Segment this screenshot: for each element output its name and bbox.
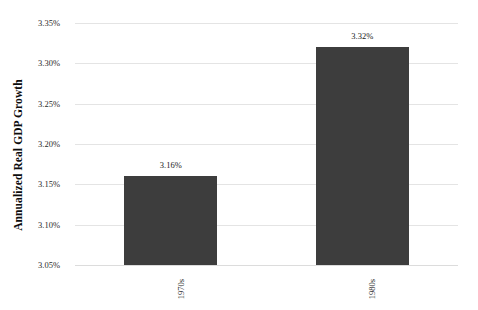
bar-value-label: 3.16% xyxy=(160,160,182,170)
bar-chart: Annualized Real GDP Growth 3.35%3.30%3.2… xyxy=(0,0,478,310)
bar-1980s[interactable] xyxy=(316,47,409,265)
x-axis-tick-label: 1980s xyxy=(367,279,377,299)
y-axis-tick-label: 3.35% xyxy=(0,18,66,28)
y-axis-tick-label: 3.30% xyxy=(0,58,66,68)
gridline xyxy=(75,23,458,24)
bar-value-label: 3.32% xyxy=(351,31,373,41)
y-axis-tick-label: 3.05% xyxy=(0,260,66,270)
x-axis-tick-label: 1970s xyxy=(176,279,186,299)
y-axis-tick-label: 3.20% xyxy=(0,139,66,149)
y-axis-tick-label: 3.10% xyxy=(0,220,66,230)
y-axis-tick-labels: 3.35%3.30%3.25%3.20%3.15%3.10%3.05% xyxy=(0,23,70,265)
plot-area: 3.16%3.32% xyxy=(75,23,458,265)
gridline xyxy=(75,265,458,266)
y-axis-tick-label: 3.15% xyxy=(0,179,66,189)
y-axis-tick-label: 3.25% xyxy=(0,99,66,109)
bar-1970s[interactable] xyxy=(124,176,217,265)
